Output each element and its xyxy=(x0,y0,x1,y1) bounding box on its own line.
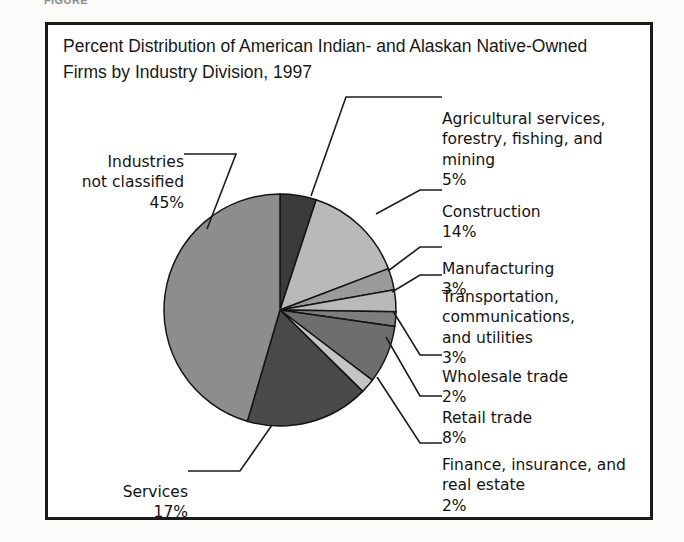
slice-label-not-classified: Industries not classified 45% xyxy=(54,131,184,234)
slice-label-not-classified-pct: 45% xyxy=(54,193,184,214)
chart-title: Percent Distribution of American Indian-… xyxy=(63,33,633,85)
slice-label-services-name: Services xyxy=(123,483,188,501)
slice-label-not-classified-name: Industries not classified xyxy=(82,153,184,192)
slice-label-retail-name: Retail trade xyxy=(442,409,532,427)
slice-label-services: Services 17% xyxy=(58,461,188,542)
figure-caption-cutoff: FIGURE xyxy=(44,0,344,8)
slice-label-wholesale-name: Wholesale trade xyxy=(442,368,568,386)
slice-label-finance: Finance, insurance, and real estate 2% xyxy=(442,434,626,537)
slice-label-finance-name: Finance, insurance, and real estate xyxy=(442,456,626,495)
slice-label-services-pct: 17% xyxy=(58,502,188,523)
slice-label-transportation-name: Transportation, communications, and util… xyxy=(442,288,575,347)
slice-label-construction-name: Construction xyxy=(442,203,541,221)
slice-label-finance-pct: 2% xyxy=(442,496,626,517)
slice-label-agricultural-name: Agricultural services, forestry, fishing… xyxy=(442,110,605,169)
